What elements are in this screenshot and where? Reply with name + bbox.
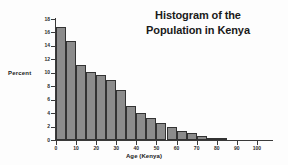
x-axis-tick-label: 80 xyxy=(208,146,226,151)
histogram-bar xyxy=(86,72,96,140)
histogram-bar xyxy=(207,138,217,140)
histogram-bar xyxy=(66,41,76,140)
y-axis-tick xyxy=(51,113,55,114)
x-axis-line xyxy=(55,140,273,141)
histogram-bar xyxy=(177,131,187,140)
x-axis-tick-label: 100 xyxy=(248,146,266,151)
x-axis-label: Age (Kenya) xyxy=(0,153,288,159)
x-axis-tick-label: 30 xyxy=(107,146,125,151)
y-axis-tick-label: 6 xyxy=(36,97,50,102)
histogram-bar xyxy=(76,65,86,140)
y-axis-tick xyxy=(51,100,55,101)
y-axis-tick-label: 10 xyxy=(36,70,50,75)
x-axis-tick-label: 50 xyxy=(147,146,165,151)
y-axis-tick-label: 18 xyxy=(36,17,50,22)
histogram-bar xyxy=(146,118,156,140)
y-axis-tick-label: 8 xyxy=(36,84,50,89)
y-axis-tick-label: 2 xyxy=(36,124,50,129)
x-axis-tick-label: 20 xyxy=(87,146,105,151)
x-axis-tick-label: 40 xyxy=(127,146,145,151)
y-axis-tick xyxy=(51,19,55,20)
x-axis-tick-label: 90 xyxy=(228,146,246,151)
x-axis-tick-label: 60 xyxy=(168,146,186,151)
histogram-bar xyxy=(106,80,116,141)
x-axis-tick-label: 70 xyxy=(188,146,206,151)
histogram-bar xyxy=(136,113,146,140)
y-axis-tick xyxy=(51,73,55,74)
y-axis-tick xyxy=(51,32,55,33)
y-axis-label: Percent xyxy=(8,70,31,76)
x-axis-tick-label: 10 xyxy=(67,146,85,151)
y-axis-tick xyxy=(51,127,55,128)
y-axis-tick-label: 14 xyxy=(36,43,50,48)
y-axis-tick-label: 12 xyxy=(36,57,50,62)
histogram-bar xyxy=(56,27,66,140)
y-axis-tick-label: 16 xyxy=(36,30,50,35)
histogram-bars xyxy=(56,19,271,140)
y-axis-tick xyxy=(51,46,55,47)
histogram-figure: Histogram of the Population in Kenya Per… xyxy=(0,0,288,165)
histogram-bar xyxy=(197,136,207,140)
histogram-bar xyxy=(187,133,197,140)
histogram-bar xyxy=(156,123,166,140)
histogram-bar xyxy=(167,127,177,140)
y-axis-tick xyxy=(51,59,55,60)
histogram-bar xyxy=(126,106,136,140)
y-axis-tick xyxy=(51,140,55,141)
plot-area xyxy=(56,19,271,140)
histogram-bar xyxy=(116,90,126,140)
y-axis-tick-label: 4 xyxy=(36,111,50,116)
y-axis-tick-label: 0 xyxy=(36,138,50,143)
y-axis-tick xyxy=(51,86,55,87)
histogram-bar xyxy=(96,75,106,140)
x-axis-tick-label: 0 xyxy=(47,146,65,151)
histogram-bar xyxy=(217,138,227,140)
